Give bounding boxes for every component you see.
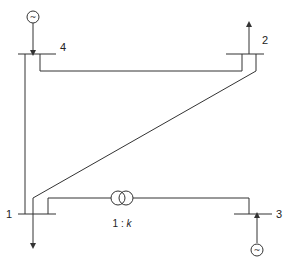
generator-icon: ~ [27, 11, 39, 23]
bus-4-label: 4 [60, 41, 66, 53]
line-4-2 [40, 54, 242, 71]
line-2-1 [33, 54, 256, 214]
bus-4: 4 ~ [18, 11, 66, 54]
bus-1-label: 1 [6, 208, 12, 220]
transformer-ratio-label: 1 : k [113, 218, 133, 229]
svg-text:~: ~ [254, 246, 261, 255]
branch-transformer-3 [133, 198, 249, 214]
bus-2-label: 2 [262, 34, 268, 46]
generator-icon: ~ [251, 244, 263, 256]
transformer-icon [111, 191, 133, 205]
bus-3-label: 3 [276, 208, 282, 220]
bus-2: 2 [226, 24, 268, 54]
svg-text:~: ~ [30, 13, 37, 22]
bus-3: 3 ~ [234, 208, 282, 256]
power-system-diagram: 4 ~ 2 1 3 ~ 1 : k [0, 0, 292, 268]
branch-1-transformer [48, 198, 111, 214]
